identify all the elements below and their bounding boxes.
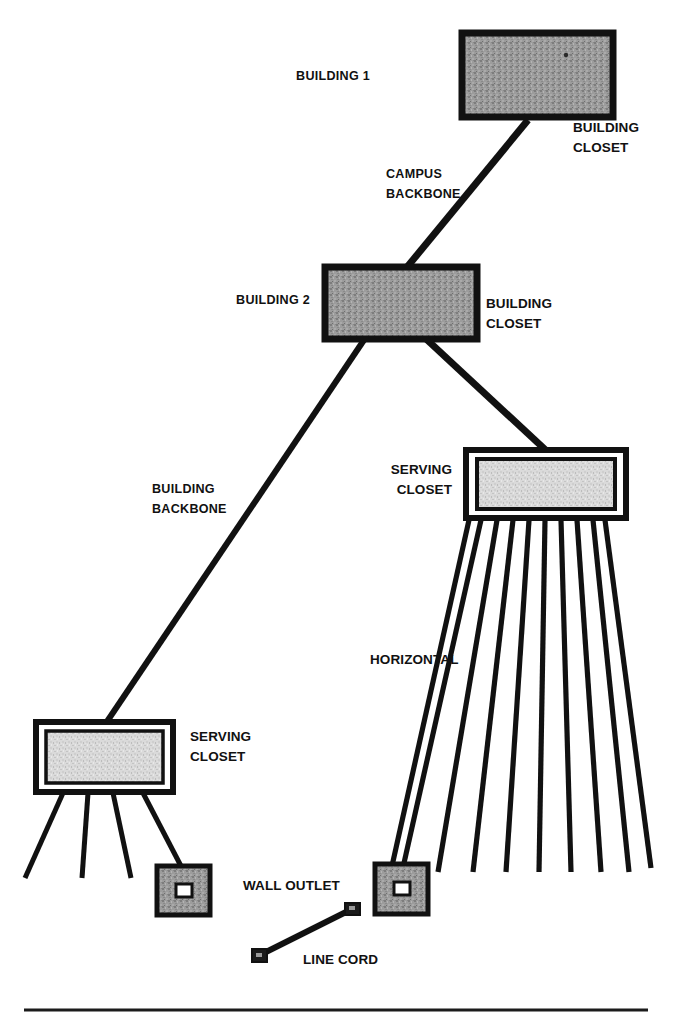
building-1-closet-label-line1: BUILDING	[573, 120, 639, 136]
line-cord-label: LINE CORD	[303, 952, 378, 968]
serving-closet-right-block	[466, 450, 626, 518]
serving-closet-right-label-line2: CLOSET	[352, 482, 452, 498]
building-backbone-label-line2: BACKBONE	[152, 501, 227, 517]
campus-backbone-label-line1: CAMPUS	[386, 166, 442, 182]
campus-backbone-label-line2: BACKBONE	[386, 186, 461, 202]
building-2-closet-label-line2: CLOSET	[486, 316, 541, 332]
serving-closet-right-label-line1: SERVING	[352, 462, 452, 478]
building-2-closet-label-line1: BUILDING	[486, 296, 552, 312]
building-backbone-right-link	[424, 337, 551, 455]
wall-outlet-right-icon	[375, 864, 428, 914]
building-1-label: BUILDING 1	[249, 68, 370, 84]
serving-closet-left-label-line1: SERVING	[190, 729, 251, 745]
serving-closet-left-label-line2: CLOSET	[190, 749, 245, 765]
building-1-block	[462, 33, 613, 117]
building-2-block	[325, 267, 477, 339]
horizontal-cable-fan	[392, 520, 651, 872]
horizontal-cabling-label: HORIZONTAL	[370, 652, 459, 668]
building-2-label: BUILDING 2	[184, 292, 310, 308]
serving-closet-left-block	[36, 722, 173, 792]
building-backbone-label-line1: BUILDING	[152, 481, 215, 497]
building-1-closet-label-line2: CLOSET	[573, 140, 628, 156]
wall-outlet-label: WALL OUTLET	[243, 878, 340, 894]
building-backbone-left-link	[104, 337, 366, 726]
wall-outlet-left-icon	[157, 866, 210, 915]
diagram-page: BUILDING 1 BUILDING CLOSET CAMPUS BACKBO…	[0, 0, 673, 1023]
